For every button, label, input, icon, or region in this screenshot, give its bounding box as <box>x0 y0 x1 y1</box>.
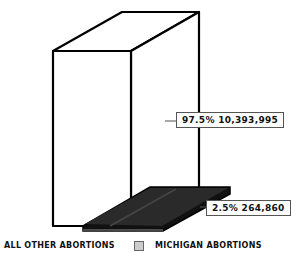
legend-all-other: ALL OTHER ABORTIONS <box>4 241 115 250</box>
legend-swatch-icon <box>134 241 144 251</box>
data-label-michigan: 2.5% 264,860 <box>206 200 291 216</box>
legend-michigan: MICHIGAN ABORTIONS <box>155 241 262 250</box>
data-label-all-other: 97.5% 10,393,995 <box>176 112 284 128</box>
